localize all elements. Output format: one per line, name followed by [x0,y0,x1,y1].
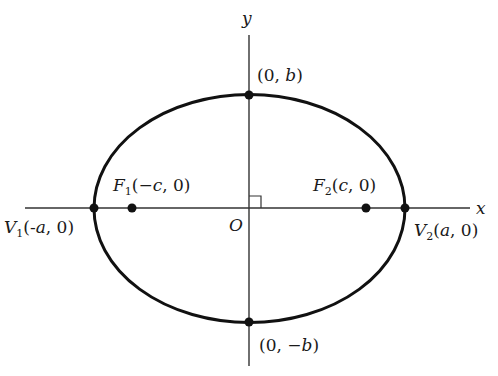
right-vertex-label: V2(a, 0) [414,220,478,243]
left-focus-label: F1(−c, 0) [112,175,190,198]
ellipse-diagram: x y O (0, b) (0, −b) V1(-a, 0) V2(a, 0) … [0,0,498,376]
top-vertex-label: (0, b) [257,65,303,85]
bottom-vertex-label: (0, −b) [259,335,319,355]
right-focus-label: F2(c, 0) [312,175,376,198]
diagram-svg: x y O (0, b) (0, −b) V1(-a, 0) V2(a, 0) … [0,0,498,376]
y-axis-label: y [241,8,252,28]
x-axis-label: x [476,198,486,218]
right-vertex-point [401,204,410,213]
right-angle-mark [249,196,261,208]
right-focus-point [362,204,371,213]
left-focus-point [128,204,137,213]
top-vertex-point [245,91,254,100]
left-vertex-point [90,204,99,213]
left-vertex-label: V1(-a, 0) [4,217,74,240]
origin-label: O [229,215,243,235]
bottom-vertex-point [245,318,254,327]
